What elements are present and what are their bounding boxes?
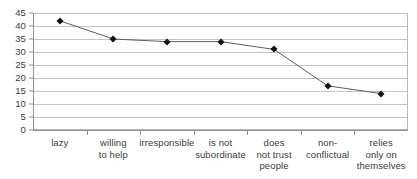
x-axis-tick-mark: [194, 131, 195, 135]
x-axis-tick-mark: [87, 131, 88, 135]
x-axis-tick-mark: [140, 131, 141, 135]
x-axis-tick-mark: [301, 131, 302, 135]
chart-screenshot: 051015202530354045 lazywilling to helpir…: [0, 0, 417, 179]
x-axis-tick-label: relies only on themselves: [348, 137, 414, 172]
x-axis: lazywilling to helpirresponsibleis not s…: [0, 0, 417, 179]
x-axis-tick-mark: [354, 131, 355, 135]
x-axis-tick-mark: [247, 131, 248, 135]
